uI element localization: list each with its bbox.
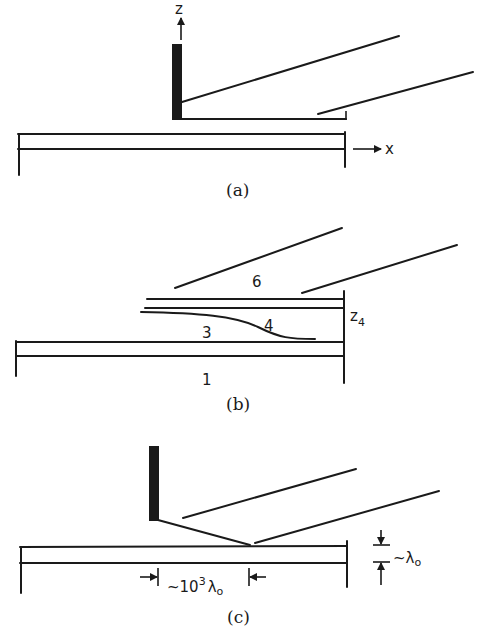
z-axis-label: z xyxy=(175,0,183,18)
figure-canvas: z x (a) 6 3 4 z4 1 (b) xyxy=(0,0,479,641)
tapered-film-line xyxy=(158,520,250,545)
panel-c: ~103λo ~λo (c) xyxy=(20,446,439,627)
caption-a: (a) xyxy=(226,180,249,200)
lower-slant-line xyxy=(302,245,457,293)
caption-c: (c) xyxy=(227,607,250,627)
region-label-1: 1 xyxy=(202,371,212,389)
vertical-wall-bar xyxy=(172,44,182,120)
vertical-wall-bar xyxy=(149,446,159,521)
panel-a: z x (a) xyxy=(18,0,473,200)
slab-top-line xyxy=(20,546,347,547)
lower-incident-line xyxy=(255,491,439,543)
region-label-6: 6 xyxy=(252,273,262,291)
region-label-4: 4 xyxy=(264,317,274,335)
horizontal-dimension-label: ~103λo xyxy=(167,575,224,598)
profile-curve xyxy=(141,312,315,339)
x-axis-label: x xyxy=(385,140,394,158)
vertical-dimension-label: ~λo xyxy=(393,549,421,569)
lower-incident-line xyxy=(318,72,473,114)
panel-b: 6 3 4 z4 1 (b) xyxy=(16,228,457,414)
caption-b: (b) xyxy=(226,394,250,414)
height-label-z4: z4 xyxy=(350,307,365,329)
region-label-3: 3 xyxy=(202,324,212,342)
upper-incident-line xyxy=(183,469,356,518)
upper-incident-line xyxy=(182,36,399,102)
